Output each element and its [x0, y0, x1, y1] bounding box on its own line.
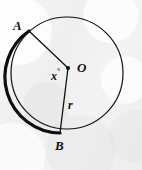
radius-segment-oa — [29, 31, 68, 68]
center-point-dot — [66, 66, 70, 70]
central-angle-label: x° — [51, 69, 60, 82]
point-label-o: O — [77, 61, 86, 74]
degree-symbol: ° — [57, 67, 60, 76]
circle-geometry-figure: A O B r x° — [0, 0, 142, 170]
point-label-b: B — [55, 139, 64, 152]
radius-label-r: r — [68, 99, 73, 111]
radius-segment-ob — [60, 68, 68, 133]
point-label-a: A — [13, 19, 22, 32]
